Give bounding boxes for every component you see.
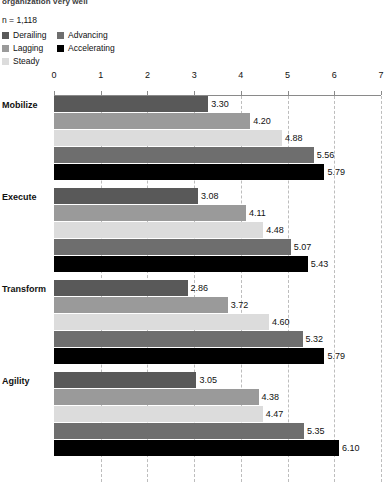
legend-swatch-advancing: [57, 32, 64, 39]
bar-value-label: 5.32: [303, 331, 324, 347]
x-tick-label: 5: [285, 70, 290, 80]
bar-value-label: 5.79: [324, 164, 345, 180]
x-tick-label: 0: [51, 70, 56, 80]
bar-group: Execute3.084.114.485.075.43: [0, 188, 385, 272]
bar-row: 4.88: [0, 130, 385, 146]
bar-steady-transform[interactable]: [54, 314, 269, 330]
bar-row: 4.48: [0, 222, 385, 238]
bar-steady-mobilize[interactable]: [54, 130, 282, 146]
bar-accelerating-transform[interactable]: [54, 348, 324, 364]
bar-value-label: 4.60: [269, 314, 290, 330]
bar-row: 6.10: [0, 440, 385, 456]
bar-row: 3.72: [0, 297, 385, 313]
legend-item-label: Lagging: [13, 43, 43, 54]
bar-value-label: 5.56: [314, 147, 335, 163]
bar-row: 4.38: [0, 389, 385, 405]
bar-advancing-transform[interactable]: [54, 331, 303, 347]
bar-value-label: 4.38: [259, 389, 280, 405]
bar-row: 5.79: [0, 348, 385, 364]
bar-steady-agility[interactable]: [54, 406, 263, 422]
bar-value-label: 3.72: [228, 297, 249, 313]
bar-row: 5.32: [0, 331, 385, 347]
legend-item[interactable]: Steady: [2, 56, 47, 67]
bar-row: 5.79: [0, 164, 385, 180]
bar-value-label: 2.86: [188, 280, 209, 296]
bar-value-label: 5.07: [291, 239, 312, 255]
bar-value-label: 6.10: [339, 440, 360, 456]
legend-column-left: DerailingLaggingSteady: [2, 30, 47, 69]
bar-group: Mobilize3.304.204.885.565.79: [0, 96, 385, 180]
legend-swatch-steady: [2, 58, 9, 65]
bar-value-label: 4.11: [246, 205, 266, 221]
x-tick-label: 7: [378, 70, 383, 80]
x-tick-label: 4: [238, 70, 243, 80]
bar-group: Transform2.863.724.605.325.79: [0, 280, 385, 364]
bar-advancing-mobilize[interactable]: [54, 147, 314, 163]
bar-value-label: 5.79: [324, 348, 345, 364]
legend-item-label: Advancing: [68, 30, 108, 41]
x-tick-label: 1: [98, 70, 103, 80]
bar-accelerating-agility[interactable]: [54, 440, 339, 456]
bar-value-label: 3.08: [198, 188, 219, 204]
bar-derailing-mobilize[interactable]: [54, 96, 208, 112]
bar-row: 3.08: [0, 188, 385, 204]
x-tick-mark: [381, 91, 382, 95]
bar-row: 4.47: [0, 406, 385, 422]
bar-advancing-agility[interactable]: [54, 423, 304, 439]
bar-value-label: 5.43: [308, 256, 329, 272]
legend-item-label: Steady: [13, 56, 39, 67]
bar-value-label: 3.05: [196, 372, 217, 388]
bar-row: 5.07: [0, 239, 385, 255]
bar-advancing-execute[interactable]: [54, 239, 291, 255]
bar-group: Agility3.054.384.475.356.10: [0, 372, 385, 456]
bar-value-label: 5.35: [304, 423, 325, 439]
bar-row: 3.30: [0, 96, 385, 112]
bar-row: 5.56: [0, 147, 385, 163]
bar-row: 5.43: [0, 256, 385, 272]
legend-item-label: Accelerating: [68, 43, 115, 54]
bar-row: 3.05: [0, 372, 385, 388]
legend-item[interactable]: Derailing: [2, 30, 47, 41]
bar-row: 2.86: [0, 280, 385, 296]
legend-swatch-derailing: [2, 32, 9, 39]
legend-item[interactable]: Accelerating: [57, 43, 115, 54]
chart-plot-area: 01234567 Mobilize3.304.204.885.565.79Exe…: [0, 70, 385, 482]
header-note: organization very well: [2, 0, 382, 6]
legend-swatch-lagging: [2, 45, 9, 52]
bar-row: 5.35: [0, 423, 385, 439]
bar-lagging-execute[interactable]: [54, 205, 246, 221]
bar-row: 4.20: [0, 113, 385, 129]
x-tick-label: 2: [145, 70, 150, 80]
bar-accelerating-execute[interactable]: [54, 256, 308, 272]
bar-groups: Mobilize3.304.204.885.565.79Execute3.084…: [0, 96, 385, 464]
legend-item[interactable]: Lagging: [2, 43, 47, 54]
legend-item-label: Derailing: [13, 30, 47, 41]
bar-derailing-execute[interactable]: [54, 188, 198, 204]
bar-lagging-transform[interactable]: [54, 297, 228, 313]
sample-size-label: n = 1,118: [2, 15, 37, 25]
bar-derailing-transform[interactable]: [54, 280, 188, 296]
bar-value-label: 4.20: [250, 113, 271, 129]
bar-value-label: 4.88: [282, 130, 303, 146]
bar-value-label: 4.48: [263, 222, 284, 238]
bar-derailing-agility[interactable]: [54, 372, 196, 388]
bar-accelerating-mobilize[interactable]: [54, 164, 324, 180]
bar-value-label: 4.47: [263, 406, 284, 422]
legend-column-right: AdvancingAccelerating: [57, 30, 115, 56]
legend-swatch-accelerating: [57, 45, 64, 52]
x-tick-label: 6: [332, 70, 337, 80]
legend-item[interactable]: Advancing: [57, 30, 115, 41]
bar-lagging-agility[interactable]: [54, 389, 259, 405]
bar-steady-execute[interactable]: [54, 222, 263, 238]
x-tick-label: 3: [192, 70, 197, 80]
bar-lagging-mobilize[interactable]: [54, 113, 250, 129]
x-axis-tick-labels: 01234567: [0, 70, 385, 90]
bar-value-label: 3.30: [208, 96, 229, 112]
bar-row: 4.60: [0, 314, 385, 330]
bar-row: 4.11: [0, 205, 385, 221]
